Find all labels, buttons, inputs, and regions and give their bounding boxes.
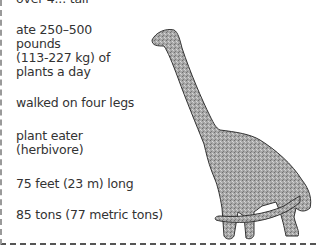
sauropod-illustration [150,12,316,242]
fact-length: 75 feet (23 m) long [16,177,134,191]
fact-diet-amount-line-3: (113-227 kg) of [16,51,110,65]
fact-diet-type-line-2: (herbivore) [16,143,83,157]
fact-diet-amount-line-1: ate 250–500 [16,23,92,37]
fact-weight: 85 tons (77 metric tons) [16,208,163,222]
fact-locomotion: walked on four legs [16,96,134,110]
fact-diet-amount-line-4: plants a day [16,65,91,79]
fact-diet-amount-line-2: pounds [16,37,61,51]
fact-height-line-1: over 4... tall [16,0,88,6]
fact-diet-type-line-1: plant eater [16,129,83,143]
